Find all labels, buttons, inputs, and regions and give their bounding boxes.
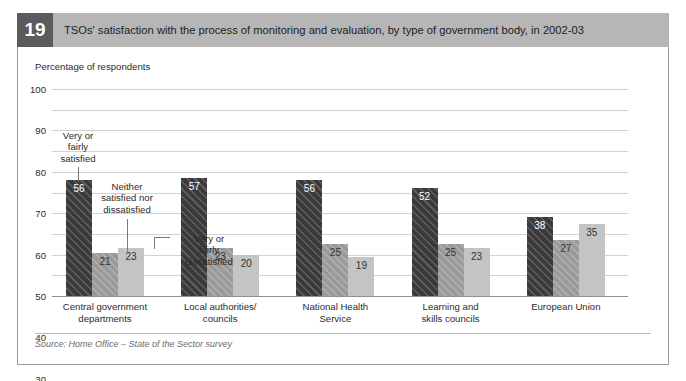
x-axis-category-label: European Union — [501, 301, 631, 313]
source-divider — [35, 333, 651, 334]
gridline-0: 0 — [52, 296, 628, 297]
x-axis-category-label: National HealthService — [270, 301, 400, 324]
bar-value-label: 25 — [438, 247, 464, 258]
x-axis-category-line: departments — [40, 313, 170, 325]
bar[interactable]: 23 — [118, 248, 144, 296]
source-note: Source: Home Office – State of the Secto… — [35, 339, 232, 349]
annotation-neither-satisfied-nor-dissatisfied-line: dissatisfied — [86, 204, 168, 215]
chart-body: Percentage of respondents 01020304050607… — [18, 47, 668, 364]
figure-number-badge: 19 — [17, 13, 53, 47]
x-axis-category-line: National Health — [270, 301, 400, 313]
x-axis-category-label: Local authorities/councils — [155, 301, 285, 324]
annotation-very-or-fairly-dissatisfied-line: Very or — [169, 233, 249, 244]
y-axis-tick-80: 80 — [35, 166, 46, 177]
figure-19-container: 19 TSOs' satisfaction with the process o… — [0, 0, 686, 381]
annotation-very-or-fairly-satisfied-line: fairly — [43, 141, 113, 152]
y-axis-tick-60: 60 — [35, 249, 46, 260]
bar-group: 562519 — [296, 89, 374, 296]
annotation-very-or-fairly-satisfied-line: Very or — [43, 130, 113, 141]
bar[interactable]: 38 — [527, 217, 553, 296]
bar[interactable]: 56 — [296, 180, 322, 296]
leader-dissatisfied-v — [154, 237, 155, 249]
x-axis-category-line: Central government — [40, 301, 170, 313]
bar-value-label: 38 — [527, 220, 553, 231]
y-axis-tick-50: 50 — [35, 291, 46, 302]
bar-value-label: 52 — [412, 191, 438, 202]
bar[interactable]: 27 — [553, 240, 579, 296]
bar-value-label: 27 — [553, 243, 579, 254]
annotation-neither-satisfied-nor-dissatisfied: Neithersatisfied nordissatisfied — [86, 181, 168, 215]
bar-value-label: 56 — [296, 183, 322, 194]
x-axis-category-line: skills councils — [386, 313, 516, 325]
bar-value-label: 25 — [322, 247, 348, 258]
figure-title: TSOs' satisfaction with the process of m… — [64, 13, 661, 47]
x-axis-category-line: councils — [155, 313, 285, 325]
x-axis-category-line: European Union — [501, 301, 631, 313]
x-axis-category-label: Learning andskills councils — [386, 301, 516, 324]
annotation-neither-satisfied-nor-dissatisfied-line: satisfied nor — [86, 192, 168, 203]
annotation-very-or-fairly-satisfied: Very orfairlysatisfied — [43, 130, 113, 164]
bar-value-label: 19 — [348, 260, 374, 271]
leader-dissatisfied-h — [154, 237, 170, 238]
bar[interactable]: 35 — [579, 224, 605, 296]
bar[interactable]: 19 — [348, 257, 374, 296]
bar-value-label: 23 — [464, 251, 490, 262]
y-axis-tick-100: 100 — [30, 84, 46, 95]
bar-value-label: 21 — [92, 256, 118, 267]
bar-group: 522523 — [412, 89, 490, 296]
annotation-neither-satisfied-nor-dissatisfied-line: Neither — [86, 181, 168, 192]
annotation-very-or-fairly-satisfied-line: satisfied — [43, 153, 113, 164]
bar[interactable]: 25 — [322, 244, 348, 296]
x-axis-category-line: Service — [270, 313, 400, 325]
figure-header: 19 TSOs' satisfaction with the process o… — [17, 13, 669, 47]
bar-value-label: 23 — [118, 251, 144, 262]
bar[interactable]: 21 — [92, 253, 118, 296]
bar[interactable]: 52 — [412, 188, 438, 296]
y-axis-tick-70: 70 — [35, 208, 46, 219]
y-axis-title: Percentage of respondents — [35, 61, 150, 72]
annotation-very-or-fairly-dissatisfied: Very orfairlydissatisfied — [169, 233, 249, 267]
bar-value-label: 57 — [181, 181, 207, 192]
leader-satisfied — [78, 167, 79, 182]
x-axis-category-line: Local authorities/ — [155, 301, 285, 313]
leader-neither — [127, 219, 128, 253]
x-axis-category-line: Learning and — [386, 301, 516, 313]
bar[interactable]: 25 — [438, 244, 464, 296]
y-axis-tick-30: 30 — [35, 373, 46, 381]
x-axis-category-label: Central governmentdepartments — [40, 301, 170, 324]
annotation-very-or-fairly-dissatisfied-line: fairly — [169, 244, 249, 255]
annotation-very-or-fairly-dissatisfied-line: dissatisfied — [169, 256, 249, 267]
bar[interactable]: 23 — [464, 248, 490, 296]
bar-value-label: 35 — [579, 227, 605, 238]
bar-group: 382735 — [527, 89, 605, 296]
